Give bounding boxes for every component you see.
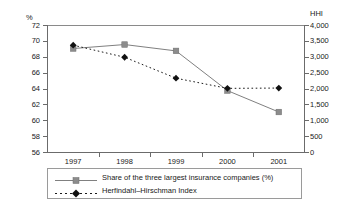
chart-container: % HHI 565860626466687072 05001,0001,5002… bbox=[0, 0, 347, 206]
data-point-marker bbox=[122, 42, 128, 48]
legend-key-share-icon bbox=[54, 172, 98, 183]
legend-label-hhi: Herfindahl–Hirschman Index bbox=[102, 187, 197, 195]
legend-item-share: Share of the three largest insurance com… bbox=[54, 171, 273, 184]
data-point-marker bbox=[121, 54, 128, 61]
data-point-marker bbox=[276, 109, 282, 115]
data-point-marker bbox=[275, 85, 282, 92]
data-point-marker bbox=[173, 48, 179, 54]
legend-key-hhi-icon bbox=[54, 185, 98, 196]
chart-legend: Share of the three largest insurance com… bbox=[47, 168, 302, 199]
legend-label-share: Share of the three largest insurance com… bbox=[102, 174, 273, 182]
legend-item-hhi: Herfindahl–Hirschman Index bbox=[54, 184, 197, 197]
data-point-marker bbox=[173, 75, 180, 82]
